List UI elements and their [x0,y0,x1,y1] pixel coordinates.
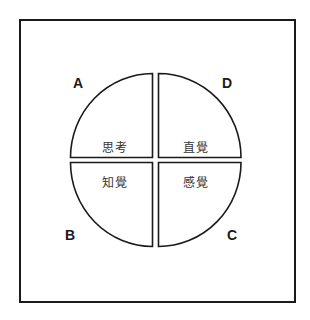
term-thinking: 思考 [102,138,128,155]
term-feeling: 感覺 [183,173,209,190]
quadrant-circle [0,0,310,320]
label-c: C [227,227,237,243]
label-a: A [73,75,83,91]
term-intuition: 直覺 [183,138,209,155]
term-perception: 知覺 [102,173,128,190]
label-d: D [222,75,232,91]
label-b: B [65,227,75,243]
